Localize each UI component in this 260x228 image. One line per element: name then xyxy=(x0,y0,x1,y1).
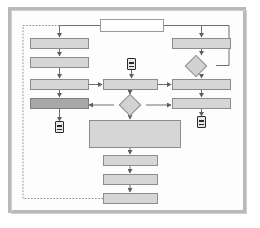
marker-bar-top xyxy=(199,120,204,122)
off-page-connector-icon-right[interactable] xyxy=(197,116,206,128)
edge-dashed-feedback-loop xyxy=(23,26,103,199)
node-right-3-label xyxy=(173,99,230,101)
node-right-1-label xyxy=(173,39,230,41)
node-right-3[interactable] xyxy=(172,98,231,109)
decision-right[interactable] xyxy=(188,58,204,74)
off-page-connector-icon-left[interactable] xyxy=(55,121,64,133)
node-start-label xyxy=(101,20,163,22)
node-bottom-1[interactable] xyxy=(103,155,158,166)
node-bottom-3[interactable] xyxy=(103,193,158,204)
decision-right-shape xyxy=(185,55,208,78)
node-right-2[interactable] xyxy=(172,79,231,90)
node-bottom-3-label xyxy=(104,194,157,196)
node-left-4-highlighted[interactable] xyxy=(30,98,89,109)
marker-bar-top xyxy=(129,62,134,64)
node-right-1[interactable] xyxy=(172,38,231,49)
marker-bar-bottom xyxy=(199,124,204,126)
screenshot-root xyxy=(0,0,260,228)
off-page-connector-icon-center[interactable] xyxy=(127,58,136,70)
node-main-process-label xyxy=(90,121,180,123)
node-right-2-label xyxy=(173,80,230,82)
node-center-1[interactable] xyxy=(103,79,158,90)
node-left-1-label xyxy=(31,39,88,41)
marker-bar-top xyxy=(57,125,62,127)
node-bottom-2-label xyxy=(104,175,157,177)
node-center-1-label xyxy=(104,80,157,82)
node-left-3[interactable] xyxy=(30,79,89,90)
marker-bar-bottom xyxy=(57,129,62,131)
marker-bar-bottom xyxy=(129,66,134,68)
node-left-2[interactable] xyxy=(30,57,89,68)
node-start[interactable] xyxy=(100,19,164,32)
decision-center-shape xyxy=(119,94,142,117)
node-bottom-1-label xyxy=(104,156,157,158)
node-left-1[interactable] xyxy=(30,38,89,49)
node-left-2-label xyxy=(31,58,88,60)
node-left-3-label xyxy=(31,80,88,82)
decision-center[interactable] xyxy=(122,97,138,113)
node-left-4-label xyxy=(31,99,88,101)
node-main-process[interactable] xyxy=(89,120,181,148)
node-bottom-2[interactable] xyxy=(103,174,158,185)
